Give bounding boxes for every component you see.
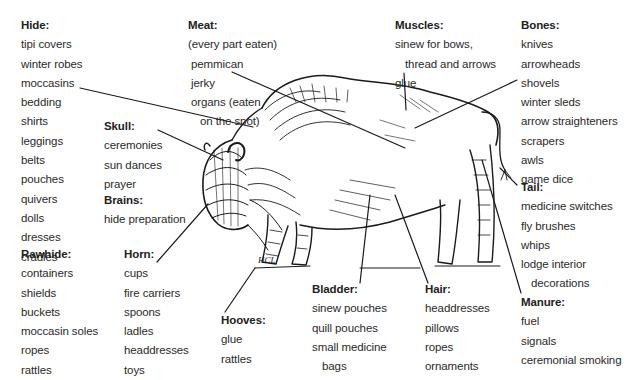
label-item: containers xyxy=(21,264,98,283)
label-title: Tail: xyxy=(521,178,613,197)
label-item: headdresses xyxy=(425,299,490,318)
label-title: Manure: xyxy=(521,293,621,312)
label-item: ropes xyxy=(21,341,98,360)
label-item: toys xyxy=(124,361,189,380)
label-item: dolls xyxy=(21,209,82,228)
label-item: belts xyxy=(21,151,82,170)
label-item: awls xyxy=(521,151,618,170)
label-item: headdresses xyxy=(124,341,189,360)
label-item: ceremonial smoking xyxy=(521,351,621,370)
label-item: moccasins xyxy=(21,74,82,93)
label-item: bedding xyxy=(21,93,82,112)
label-brains: Brains: hide preparation xyxy=(104,191,186,230)
label-item: sinew for bows, xyxy=(395,35,496,54)
label-item: tipi covers xyxy=(21,35,82,54)
label-item: knives xyxy=(521,35,618,54)
label-title: Horn: xyxy=(124,245,189,264)
label-item: medicine switches xyxy=(521,197,613,216)
label-item: fire carriers xyxy=(124,284,189,303)
label-item: pouches xyxy=(21,170,82,189)
label-title: Bones: xyxy=(521,16,618,35)
label-hide: Hide: tipi covers winter robes moccasins… xyxy=(21,16,82,267)
label-item: jerky xyxy=(188,74,277,93)
label-title: Hide: xyxy=(21,16,82,35)
label-meat: Meat: (every part eaten) pemmican jerky … xyxy=(188,16,277,132)
label-item: bags xyxy=(312,357,387,376)
label-item: (every part eaten) xyxy=(188,35,277,54)
label-item: thread and arrows xyxy=(395,55,496,74)
label-item: rattles xyxy=(221,350,266,369)
label-item: winter robes xyxy=(21,55,82,74)
label-item: fuel xyxy=(521,312,621,331)
label-item: shirts xyxy=(21,112,82,131)
label-item: fly brushes xyxy=(521,217,613,236)
label-item: leggings xyxy=(21,132,82,151)
label-muscles: Muscles: sinew for bows, thread and arro… xyxy=(395,16,496,93)
label-item: glue xyxy=(395,74,496,93)
label-bladder: Bladder: sinew pouches quill pouches sma… xyxy=(312,280,387,376)
label-item: signals xyxy=(521,332,621,351)
label-item: arrow straighteners xyxy=(521,112,618,131)
label-item: whips xyxy=(521,236,613,255)
label-item: decorations xyxy=(521,274,613,293)
label-item: buckets xyxy=(21,303,98,322)
label-item: shields xyxy=(21,284,98,303)
label-title: Skull: xyxy=(104,117,162,136)
label-item: sun dances xyxy=(104,156,162,175)
label-item: ladles xyxy=(124,322,189,341)
label-skull: Skull: ceremonies sun dances prayer xyxy=(104,117,162,194)
label-item: ceremonies xyxy=(104,136,162,155)
label-horn: Horn: cups fire carriers spoons ladles h… xyxy=(124,245,189,380)
label-item: sinew pouches xyxy=(312,299,387,318)
label-hooves: Hooves: glue rattles xyxy=(221,311,266,369)
label-item: glue xyxy=(221,330,266,349)
label-item: rattles xyxy=(21,361,98,380)
label-item: shovels xyxy=(521,74,618,93)
label-item: spoons xyxy=(124,303,189,322)
artist-signature: HCL xyxy=(257,255,276,265)
label-rawhide: Rawhide: containers shields buckets mocc… xyxy=(21,245,98,380)
label-title: Hooves: xyxy=(221,311,266,330)
label-item: quill pouches xyxy=(312,319,387,338)
label-item: ropes xyxy=(425,338,490,357)
label-item: cups xyxy=(124,264,189,283)
label-item: small medicine xyxy=(312,338,387,357)
label-item: on the spot) xyxy=(188,112,277,131)
label-item: hide preparation xyxy=(104,210,186,229)
label-item: pillows xyxy=(425,319,490,338)
label-item: arrowheads xyxy=(521,55,618,74)
label-item: pemmican xyxy=(188,55,277,74)
label-item: moccasin soles xyxy=(21,322,98,341)
label-title: Muscles: xyxy=(395,16,496,35)
label-item: organs (eaten xyxy=(188,93,277,112)
label-title: Hair: xyxy=(425,280,490,299)
label-title: Brains: xyxy=(104,191,186,210)
label-tail: Tail: medicine switches fly brushes whip… xyxy=(521,178,613,294)
label-hair: Hair: headdresses pillows ropes ornament… xyxy=(425,280,490,376)
label-item: lodge interior xyxy=(521,255,613,274)
label-item: winter sleds xyxy=(521,93,618,112)
label-item: scrapers xyxy=(521,132,618,151)
label-bones: Bones: knives arrowheads shovels winter … xyxy=(521,16,618,190)
label-title: Rawhide: xyxy=(21,245,98,264)
label-title: Bladder: xyxy=(312,280,387,299)
label-title: Meat: xyxy=(188,16,277,35)
label-item: quivers xyxy=(21,190,82,209)
label-manure: Manure: fuel signals ceremonial smoking xyxy=(521,293,621,370)
label-item: ornaments xyxy=(425,357,490,376)
